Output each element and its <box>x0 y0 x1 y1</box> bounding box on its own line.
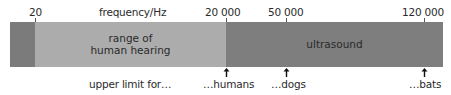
label-bats: …bats <box>409 78 441 90</box>
upper-limit-prefix: upper limit for… <box>89 78 171 90</box>
human-hearing-label-line1: range of <box>35 32 226 44</box>
tick-label-20: 20 <box>29 6 42 18</box>
arrow-up-icon <box>421 68 428 77</box>
axis-title: frequency/Hz <box>99 6 166 18</box>
tick-label-50000: 50 000 <box>268 6 304 18</box>
ultrasound-label: ultrasound <box>226 38 443 50</box>
arrow-up-icon <box>283 68 290 77</box>
human-hearing-label-line2: human hearing <box>35 44 226 56</box>
tick-label-120000: 120 000 <box>402 6 444 18</box>
human-hearing-band: range of human hearing <box>35 22 226 67</box>
arrow-up-icon <box>223 68 230 77</box>
label-humans: …humans <box>203 78 254 90</box>
tick-label-20000: 20 000 <box>205 6 241 18</box>
label-dogs: …dogs <box>271 78 306 90</box>
ultrasound-band: ultrasound <box>226 22 443 67</box>
infrasound-band <box>10 22 35 67</box>
